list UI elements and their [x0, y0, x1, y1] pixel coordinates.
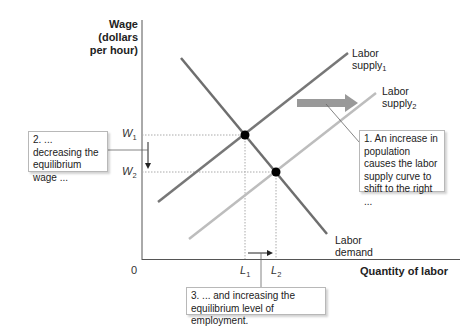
- w1-tick: W1: [122, 127, 137, 142]
- equilibrium-point-2: [272, 168, 281, 177]
- labor-demand-label: Labordemand: [335, 234, 373, 258]
- l1-tick: L1: [240, 264, 250, 279]
- x-axis-title: Quantity of labor: [360, 265, 448, 278]
- labor-supply-2-curve: [189, 93, 376, 239]
- y-axis-title: Wage (dollars per hour): [72, 18, 138, 57]
- labor-supply-1-curve: [158, 53, 348, 202]
- equilibrium-point-1: [241, 131, 250, 140]
- callout-decreasing-wage: 2. ... decreasing the equilibrium wage .…: [28, 131, 108, 172]
- callout-population-increase: 1. An increase in population causes the …: [359, 130, 445, 192]
- labor-supply-1-label: Laborsupply1: [352, 47, 387, 75]
- shift-arrow-body: [297, 99, 345, 107]
- right-arrow-icon: [267, 250, 273, 256]
- origin-label: 0: [131, 264, 137, 276]
- w2-tick: W2: [122, 165, 137, 180]
- callout-increasing-employment: 3. ... and increasing the equilibrium le…: [186, 287, 326, 315]
- labor-demand-curve: [181, 58, 327, 234]
- labor-supply-2-label: Laborsupply2: [382, 85, 417, 113]
- down-arrow-icon: [145, 163, 151, 169]
- l2-tick: L2: [271, 264, 281, 279]
